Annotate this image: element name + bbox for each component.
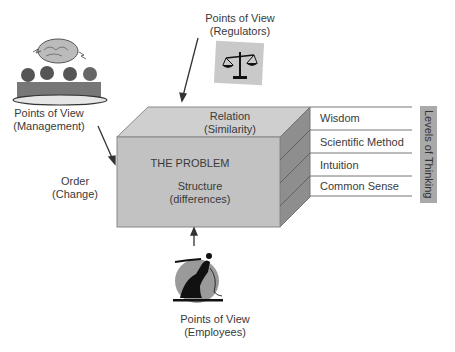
relation-similarity-label: Relation (Similarity) bbox=[180, 110, 280, 136]
order-line1: Order bbox=[45, 175, 105, 188]
viewpoint-regulators-line1: Points of View bbox=[195, 12, 285, 25]
level-common-sense: Common Sense bbox=[320, 180, 399, 192]
relation-line1: Relation bbox=[180, 110, 280, 123]
level-wisdom: Wisdom bbox=[320, 112, 360, 124]
structure-differences-label: Structure (differences) bbox=[150, 180, 250, 206]
relation-line2: (Similarity) bbox=[180, 123, 280, 136]
levels-of-thinking-bar: Levels of Thinking bbox=[420, 106, 437, 203]
worker-icon bbox=[173, 253, 223, 303]
arrow-regulators bbox=[183, 38, 198, 96]
viewpoint-management-label: Points of View (Management) bbox=[8, 107, 90, 133]
viewpoint-employees-line1: Points of View bbox=[170, 313, 260, 326]
structure-line1: Structure bbox=[150, 180, 250, 193]
meeting-brain-icon bbox=[13, 39, 107, 105]
levels-of-thinking-label: Levels of Thinking bbox=[423, 110, 435, 198]
viewpoint-management-line2: (Management) bbox=[8, 120, 90, 133]
viewpoint-regulators-line2: (Regulators) bbox=[195, 25, 285, 38]
level-scientific-method: Scientific Method bbox=[320, 136, 404, 148]
order-line2: (Change) bbox=[45, 188, 105, 201]
order-change-label: Order (Change) bbox=[45, 175, 105, 201]
viewpoint-management-line1: Points of View bbox=[8, 107, 90, 120]
problem-title: THE PROBLEM bbox=[140, 157, 240, 170]
viewpoint-regulators-label: Points of View (Regulators) bbox=[195, 12, 285, 38]
structure-line2: (differences) bbox=[150, 193, 250, 206]
viewpoint-employees-label: Points of View (Employees) bbox=[170, 313, 260, 339]
viewpoint-employees-line2: (Employees) bbox=[170, 326, 260, 339]
arrow-management bbox=[98, 126, 113, 160]
level-intuition: Intuition bbox=[320, 159, 359, 171]
scales-icon bbox=[214, 41, 264, 85]
